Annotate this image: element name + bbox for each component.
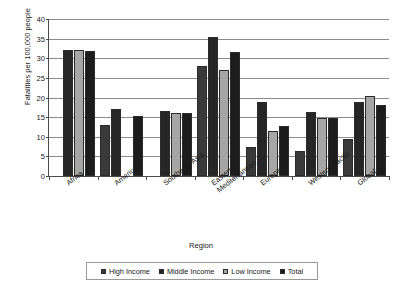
y-tick-label: 30 — [37, 54, 45, 63]
bar — [160, 111, 170, 176]
y-tick-label: 35 — [37, 34, 45, 43]
bar — [279, 126, 289, 176]
y-tick-label: 0 — [41, 172, 45, 181]
y-tick-label: 20 — [37, 93, 45, 102]
bar — [74, 50, 84, 176]
bar — [295, 151, 305, 176]
bar — [85, 51, 95, 176]
legend-label: Low Income — [231, 267, 270, 276]
legend-item[interactable]: Middle Income — [159, 267, 214, 276]
legend-swatch-icon — [159, 269, 164, 274]
bar — [306, 112, 316, 176]
legend-item[interactable]: Low Income — [223, 267, 270, 276]
bar — [208, 37, 218, 176]
x-tick-mark — [292, 176, 293, 180]
bar — [257, 102, 267, 176]
legend-swatch-icon — [101, 269, 106, 274]
x-axis-title: Region — [0, 241, 402, 250]
y-tick-label: 40 — [37, 15, 45, 24]
x-tick-mark — [389, 176, 390, 180]
bar-group — [292, 19, 341, 176]
bar-group — [243, 19, 292, 176]
bar — [63, 50, 73, 176]
x-tick-mark — [340, 176, 341, 180]
legend-label: Total — [288, 267, 303, 276]
x-tick-mark — [195, 176, 196, 180]
bar — [376, 105, 386, 176]
bar — [100, 125, 110, 176]
legend-swatch-icon — [280, 269, 285, 274]
y-tick-label: 15 — [37, 113, 45, 122]
legend-item[interactable]: High Income — [101, 267, 150, 276]
bar-group — [49, 19, 98, 176]
y-axis-title: Fatalities per 100,000 people — [23, 0, 32, 132]
legend-label: High Income — [109, 267, 150, 276]
bar — [354, 102, 364, 176]
y-tick-label: 5 — [41, 152, 45, 161]
bar-group — [98, 19, 147, 176]
x-tick-mark — [49, 176, 50, 180]
x-tick-mark — [98, 176, 99, 180]
bar — [111, 109, 121, 176]
plot-area: 0510152025303540 — [48, 19, 389, 177]
chart-legend: High IncomeMiddle IncomeLow IncomeTotal — [86, 262, 318, 280]
x-tick-mark — [146, 176, 147, 180]
bar-group — [146, 19, 195, 176]
legend-item[interactable]: Total — [280, 267, 303, 276]
bar — [365, 96, 375, 176]
bar-groups — [49, 19, 389, 176]
y-tick-label: 25 — [37, 73, 45, 82]
y-tick-label: 10 — [37, 132, 45, 141]
bar-chart: Fatalities per 100,000 people 0510152025… — [0, 0, 402, 300]
bar — [219, 70, 229, 176]
legend-swatch-icon — [223, 269, 228, 274]
legend-label: Middle Income — [167, 267, 214, 276]
